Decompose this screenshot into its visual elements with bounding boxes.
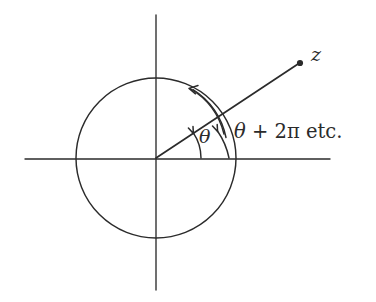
label-angle-theta-plus-2pi: θ + 2π etc. (234, 122, 342, 142)
theta-plus-2pi-arc-arrowhead (213, 125, 218, 132)
label-theta-symbol: θ (234, 120, 246, 143)
ray-to-z (156, 64, 298, 158)
theta-plus-2pi-arc-lower (218, 131, 230, 158)
label-theta-plus-2pi-rest: + 2π etc. (246, 120, 343, 143)
figure-canvas: z θ θ + 2π etc. (0, 0, 376, 302)
label-angle-theta: θ (199, 127, 210, 146)
theta-arc-arrowhead (188, 127, 193, 134)
point-z-dot (297, 60, 303, 66)
label-point-z: z (311, 45, 321, 64)
